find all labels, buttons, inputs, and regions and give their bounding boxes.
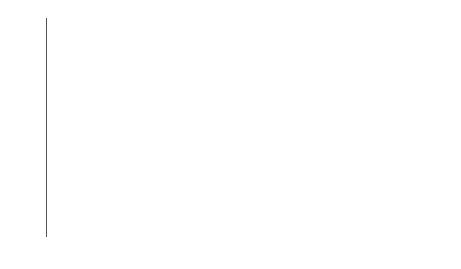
y-axis-line: [46, 18, 47, 237]
bar-chart: [0, 0, 461, 269]
